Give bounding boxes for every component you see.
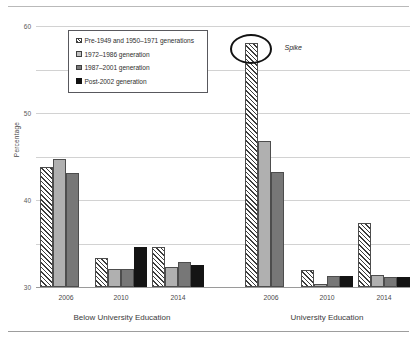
y-tick-label: 30 [24,284,31,291]
y-axis-label: Percentage [13,100,20,180]
legend-swatch-dark-gray-icon [76,65,82,71]
bar-2010-s4 [134,247,147,287]
bar-2014-s2 [371,275,384,287]
chart-legend: Pre-1949 and 1950–1971 generations 1972–… [68,30,208,93]
bar-2006-s2 [258,141,271,287]
x-tick-label: 2010 [319,294,334,301]
gridline-0: 0 [36,287,410,288]
bar-2006-s1 [245,43,258,287]
legend-item-1987-2001: 1987–2001 generation [76,64,201,71]
x-tick-label: 2006 [58,294,73,301]
bar-2010-s4 [340,276,353,287]
page-rule-bottom [8,331,409,332]
bar-2010-s1 [301,270,314,287]
bar-2010-s2 [314,284,327,287]
spike-annotation-circle [230,34,272,64]
bar-2014-s2 [165,267,178,287]
bar-2010-s2 [108,269,121,287]
x-tick-label: 2006 [263,294,278,301]
bar-2010-s3 [327,276,340,287]
spike-annotation-label: Spike [285,44,303,51]
group-axis-label: University Education [291,313,364,322]
bar-2014-s4 [191,265,204,287]
bar-2014-s1 [358,223,371,287]
bar-2006-s1 [40,167,53,287]
bar-2014-s3 [384,277,397,287]
y-tick-label: 50 [24,110,31,117]
bar-2006-s2 [53,159,66,287]
x-tick-label: 2010 [113,294,128,301]
y-tick-label: 40 [24,197,31,204]
bar-2006-s3 [271,172,284,287]
bar-2010-s3 [121,269,134,287]
group-axis-label: Below University Education [74,313,171,322]
legend-item-post2002: Post-2002 generation [76,78,201,85]
legend-label: 1972–1986 generation [85,51,150,58]
bar-2014-s3 [178,262,191,287]
bar-chart-figure: Percentage 01020304050602006201020142006… [0,8,417,330]
page-rule-top [8,6,409,7]
bar-2014-s4 [397,277,410,287]
bar-2010-s1 [95,258,108,287]
bar-2014-s1 [152,247,165,287]
legend-label: 1987–2001 generation [85,64,150,71]
legend-swatch-diagonal-hatch-icon [76,38,82,44]
y-tick-label: 60 [24,23,31,30]
legend-item-1972-1986: 1972–1986 generation [76,51,201,58]
bar-group [357,26,411,287]
x-tick-label: 2014 [170,294,185,301]
legend-label: Post-2002 generation [85,78,147,85]
legend-swatch-light-gray-icon [76,51,82,57]
bar-2006-s3 [66,173,79,287]
legend-label: Pre-1949 and 1950–1971 generations [85,37,194,44]
x-tick-label: 2014 [376,294,391,301]
bar-group [300,26,354,287]
legend-swatch-black-icon [76,78,82,84]
bar-group [244,26,298,287]
legend-item-pre1949: Pre-1949 and 1950–1971 generations [76,37,201,44]
